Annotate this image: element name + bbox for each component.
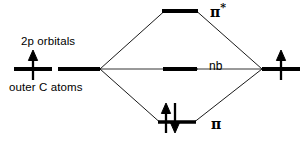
electron-arrow-down-pi [170,103,179,133]
label-star-glyph: * [220,1,226,14]
mo-energy-diagram: 2p orbitals outer C atoms π* nb π [0,0,307,149]
electron-arrow-up-pi [161,103,170,133]
label-pi-star-glyph: π [210,4,220,20]
label-2p-orbitals: 2p orbitals [21,36,75,48]
correlation-line-right-antibonding [197,12,262,70]
correlation-line-left-bonding [100,69,159,122]
electron-arrow-up-left-fragment [28,50,37,80]
correlation-lines [100,12,262,122]
label-nb-orbital: nb [209,60,222,72]
correlation-line-right-bonding [195,69,262,122]
mo-diagram-canvas [0,0,307,149]
mo-level-bars [158,11,198,122]
electron-arrow-up-right-fragment [276,50,285,80]
correlation-line-left-antibonding [100,12,164,70]
label-pi-star-orbital: π* [210,5,226,19]
label-outer-c-atoms: outer C atoms [9,82,83,94]
label-pi-orbital: π [211,117,221,131]
